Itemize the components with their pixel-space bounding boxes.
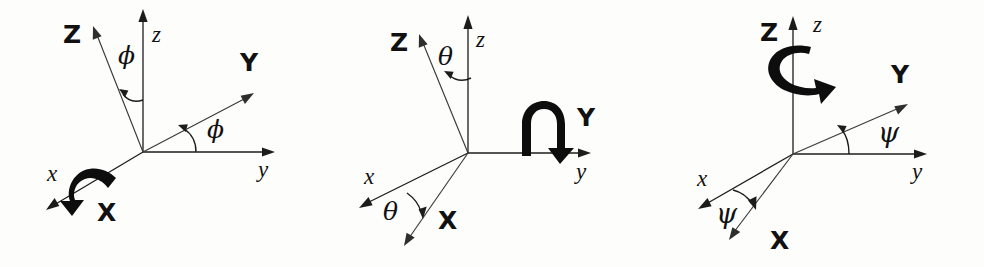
label-body-X: X — [770, 228, 789, 253]
label-body-X: X — [97, 200, 116, 225]
label-space-y: y — [912, 160, 922, 183]
angle-arc-upper-theta — [444, 71, 471, 80]
label-body-Z: Z — [760, 20, 778, 45]
label-space-y: y — [258, 158, 268, 181]
space-z-axis — [463, 15, 472, 153]
space-z-axis — [138, 9, 147, 152]
label-space-y: y — [576, 160, 586, 183]
label-space-x: x — [47, 162, 57, 185]
space-x-axis — [698, 154, 793, 209]
euler-angle-figure-row: Z z Y y x X ϕ ϕ — [0, 0, 984, 267]
panel-roll-phi: Z z Y y x X ϕ ϕ — [0, 0, 328, 267]
space-x-axis — [359, 153, 468, 208]
label-body-Y: Y — [240, 50, 258, 75]
label-space-z: z — [476, 28, 485, 51]
angle-arc-lower-theta — [407, 193, 427, 219]
label-space-x: x — [364, 165, 374, 188]
label-body-Z: Z — [390, 30, 408, 55]
label-body-Y: Y — [577, 105, 595, 130]
rotation-spin-arrow-z — [768, 45, 836, 104]
body-Y-axis — [143, 93, 254, 152]
label-body-Y: Y — [891, 62, 909, 87]
label-angle-lower-psi: ψ — [716, 200, 737, 227]
label-body-X: X — [438, 208, 457, 233]
label-space-z: z — [813, 13, 822, 36]
space-y-axis — [793, 149, 927, 158]
panel-yaw-psi: Z z Y y x X ψ ψ — [656, 0, 984, 267]
panel-pitch-theta: Z z Y y x X θ θ — [328, 0, 656, 267]
label-angle-lower-theta: θ — [383, 199, 398, 224]
label-space-z: z — [152, 23, 161, 46]
label-angle-lower-phi: ϕ — [207, 117, 224, 142]
label-body-Z: Z — [63, 22, 81, 47]
label-angle-upper-psi: ψ — [878, 119, 899, 146]
label-space-x: x — [697, 167, 707, 190]
rotation-spin-arrow-y — [522, 101, 574, 164]
label-angle-upper-theta: θ — [438, 44, 453, 69]
label-angle-upper-phi: ϕ — [118, 43, 135, 68]
angle-arc-upper-psi — [837, 125, 849, 154]
space-y-axis — [143, 147, 275, 156]
